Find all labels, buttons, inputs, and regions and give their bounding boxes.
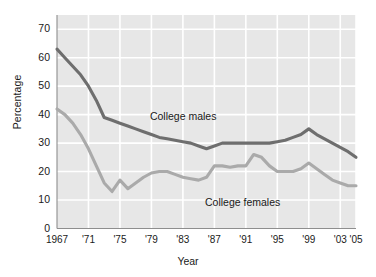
x-tick-05: '05 bbox=[339, 234, 373, 245]
y-tick-40: 40 bbox=[24, 109, 50, 120]
x-tick-75: '75 bbox=[103, 234, 137, 245]
series-label-males: College males bbox=[150, 110, 217, 122]
y-tick-70: 70 bbox=[24, 23, 50, 34]
x-axis-title: Year bbox=[0, 255, 376, 267]
x-tick-99: '99 bbox=[292, 234, 326, 245]
y-tick-10: 10 bbox=[24, 194, 50, 205]
y-tick-20: 20 bbox=[24, 166, 50, 177]
y-tick-30: 30 bbox=[24, 137, 50, 148]
y-tick-60: 60 bbox=[24, 52, 50, 63]
y-tick-0: 0 bbox=[24, 223, 50, 234]
series-label-females: College females bbox=[205, 196, 280, 208]
x-tick-95: '95 bbox=[260, 234, 294, 245]
y-axis-title: Percentage bbox=[11, 57, 23, 147]
y-tick-50: 50 bbox=[24, 80, 50, 91]
x-tick-91: '91 bbox=[229, 234, 263, 245]
x-tick-83: '83 bbox=[166, 234, 200, 245]
line-chart: 706050403020100 1967'71'75'79'83'87'91'9… bbox=[0, 0, 376, 277]
x-tick-79: '79 bbox=[134, 234, 168, 245]
x-tick-71: '71 bbox=[71, 234, 105, 245]
x-tick-1967: 1967 bbox=[40, 234, 74, 245]
x-tick-87: '87 bbox=[197, 234, 231, 245]
